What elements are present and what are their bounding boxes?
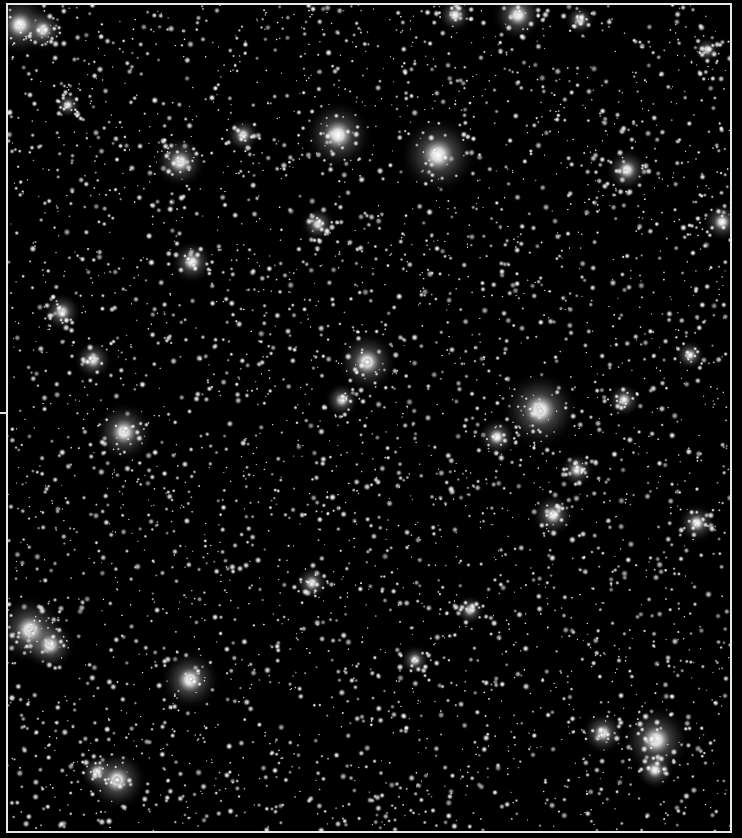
star-field-photo: Dense star field [6,3,732,833]
star-field-canvas [8,5,730,831]
